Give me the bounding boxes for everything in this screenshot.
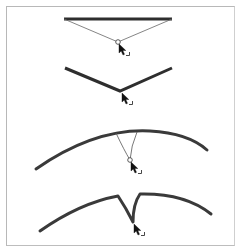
arrow-cursor-icon [122,93,133,105]
arrow-cursor-icon [131,162,142,174]
cusp-path[interactable] [40,194,211,231]
step-4-cusp-result [40,194,211,236]
guide-curve-left [116,133,130,160]
curved-path-segment[interactable] [36,131,207,169]
path-editing-diagram [0,0,241,252]
arrow-cursor-icon [134,224,145,236]
corner-path[interactable] [65,68,172,91]
drag-point-handle[interactable] [116,40,121,45]
step-3-curved-segment [36,131,207,174]
arrow-cursor-icon [119,44,130,56]
step-2-corner-result [65,68,172,105]
step-1-straight-segment [64,19,172,56]
guide-curve-right [130,132,137,160]
guide-line-right [118,19,172,42]
drag-point-handle[interactable] [128,158,133,163]
guide-line-left [64,19,118,42]
